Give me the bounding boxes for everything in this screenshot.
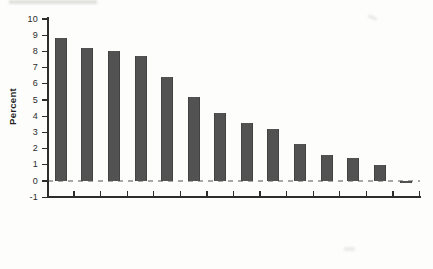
y-tick-label: 10 bbox=[8, 14, 38, 25]
bar-bahrain bbox=[108, 51, 120, 181]
scan-artifact bbox=[344, 247, 355, 251]
x-axis bbox=[47, 196, 421, 198]
bar-chart: Percent -1012345678910 LebanonDjiboutiBa… bbox=[0, 0, 433, 269]
bar-yemen-rep- bbox=[214, 113, 226, 181]
y-tick-label: 3 bbox=[8, 127, 38, 138]
bar-qatar bbox=[321, 155, 333, 181]
y-tick-label: 9 bbox=[8, 30, 38, 41]
bar-egypt-arab-rep- bbox=[161, 77, 173, 181]
bar-tunisia bbox=[347, 158, 359, 181]
bar-lebanon bbox=[55, 38, 67, 181]
scan-artifact bbox=[9, 0, 97, 4]
y-tick-label: 5 bbox=[8, 95, 38, 106]
scan-artifact bbox=[368, 14, 377, 21]
bar-algeria bbox=[294, 144, 306, 181]
y-tick-label: -1 bbox=[8, 192, 38, 203]
bar-west-bank bbox=[400, 181, 412, 183]
y-tick-label: 1 bbox=[8, 159, 38, 170]
y-tick-label: 4 bbox=[8, 111, 38, 122]
bar-saudi-arabia bbox=[188, 97, 200, 181]
y-axis bbox=[47, 17, 49, 198]
zero-line bbox=[48, 180, 420, 182]
bar-iraq bbox=[241, 123, 253, 181]
bar-morocco bbox=[374, 165, 386, 181]
y-tick-label: 0 bbox=[8, 176, 38, 187]
y-tick-label: 7 bbox=[8, 62, 38, 73]
y-tick-label: 8 bbox=[8, 46, 38, 57]
y-tick-label: 2 bbox=[8, 143, 38, 154]
bar-oman bbox=[267, 129, 279, 181]
bar-jordan bbox=[135, 56, 147, 181]
bar-djibouti bbox=[81, 48, 93, 181]
y-tick-label: 6 bbox=[8, 78, 38, 89]
